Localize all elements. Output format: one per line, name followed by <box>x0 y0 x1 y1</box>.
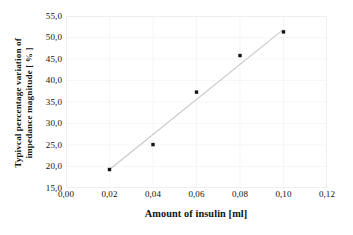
y-axis-tick-label: 20,0 <box>36 162 62 171</box>
x-axis-tick-labels: 0,000,020,040,060,080,100,12 <box>0 190 353 204</box>
grid-lines <box>66 16 327 188</box>
y-axis-tick-label: 30,0 <box>36 119 62 128</box>
x-axis-tick-label: 0,04 <box>136 190 170 199</box>
data-point <box>108 168 111 171</box>
x-axis-tick-label: 0,00 <box>49 190 83 199</box>
y-axis-tick-label: 55,0 <box>36 12 62 21</box>
plot-area <box>66 16 327 188</box>
plot-canvas <box>66 16 327 188</box>
data-point <box>238 54 241 57</box>
x-axis-tick-label: 0,12 <box>310 190 344 199</box>
y-axis-title-line-1: Typivcal percentage variation of <box>13 38 25 168</box>
chart-figure: Typivcal percentage variation of impedan… <box>0 0 353 235</box>
x-axis-tick-label: 0,02 <box>93 190 127 199</box>
data-point <box>151 143 154 146</box>
x-axis-tick-label: 0,06 <box>180 190 214 199</box>
x-axis-title: Amount of insulin [ml] <box>60 208 332 219</box>
data-point <box>195 90 198 93</box>
y-axis-tick-label: 25,0 <box>36 141 62 150</box>
data-point <box>282 30 285 33</box>
y-axis-tick-label: 35,0 <box>36 98 62 107</box>
y-axis-tick-label: 50,0 <box>36 33 62 42</box>
y-axis-tick-label: 45,0 <box>36 55 62 64</box>
x-axis-tick-label: 0,10 <box>267 190 301 199</box>
x-axis-tick-label: 0,08 <box>223 190 257 199</box>
y-axis-tick-label: 40,0 <box>36 76 62 85</box>
